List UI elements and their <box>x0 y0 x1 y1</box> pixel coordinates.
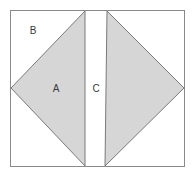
label-c: C <box>92 83 99 94</box>
geometry-figure: B A C <box>0 0 195 176</box>
label-b: B <box>30 25 37 36</box>
label-a: A <box>53 83 60 94</box>
figure-canvas: B A C <box>0 0 195 176</box>
